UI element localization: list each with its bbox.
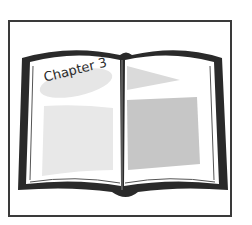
open-book-icon	[0, 0, 252, 225]
right-image-block	[127, 97, 200, 170]
left-text-block	[42, 105, 113, 176]
